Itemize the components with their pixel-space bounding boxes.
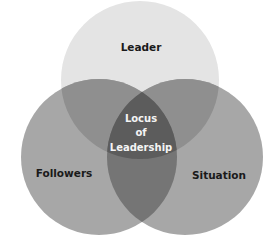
center-label-line1: Locus	[125, 113, 157, 124]
center-label-line2: of	[135, 127, 147, 138]
leader-label: Leader	[121, 41, 163, 53]
followers-label: Followers	[36, 167, 93, 179]
center-label-line3: Leadership	[110, 142, 172, 153]
situation-label: Situation	[192, 169, 246, 181]
venn-diagram: Leader Followers Situation Locus of Lead…	[0, 0, 273, 244]
